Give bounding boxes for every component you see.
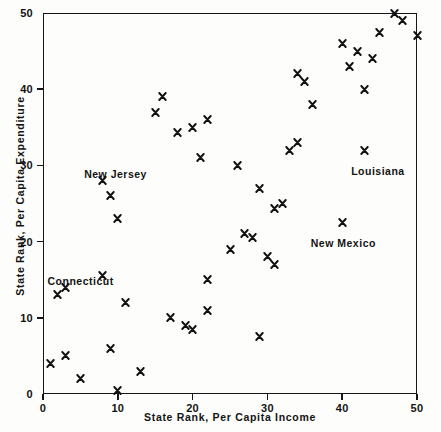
data-point (308, 100, 317, 109)
y-axis-label: State Rank, Per Capita Expenditure (14, 26, 26, 366)
y-tick (37, 317, 43, 319)
data-point (255, 332, 264, 341)
x-tick (341, 394, 343, 400)
point-annotation: Connecticut (47, 275, 113, 287)
data-point (196, 153, 205, 162)
point-annotation: Louisiana (351, 165, 405, 177)
data-point (338, 218, 347, 227)
point-annotation: New Jersey (84, 168, 147, 180)
data-point (360, 146, 369, 155)
data-point (203, 306, 212, 315)
x-tick (42, 394, 44, 400)
data-point (151, 108, 160, 117)
data-point (188, 325, 197, 334)
data-point (121, 298, 130, 307)
data-point (270, 260, 279, 269)
data-point (61, 351, 70, 360)
data-point (188, 123, 197, 132)
data-point (398, 16, 407, 25)
data-point (46, 359, 55, 368)
y-tick (37, 88, 43, 90)
data-point (368, 54, 377, 63)
data-point (360, 85, 369, 94)
data-point (166, 313, 175, 322)
data-point (353, 47, 362, 56)
x-tick (192, 394, 194, 400)
data-point (203, 115, 212, 124)
x-axis-label: State Rank, Per Capita Income (43, 411, 417, 423)
data-point (248, 233, 257, 242)
plot-area: New JerseyConnecticutLouisianaNew Mexico (43, 13, 417, 394)
data-point (278, 199, 287, 208)
x-tick (416, 394, 418, 400)
data-point (158, 92, 167, 101)
y-tick (37, 165, 43, 167)
data-point (106, 191, 115, 200)
data-point (338, 39, 347, 48)
data-point (136, 367, 145, 376)
data-point (255, 184, 264, 193)
y-tick-label: 0 (27, 388, 33, 400)
data-point (233, 161, 242, 170)
data-point (300, 77, 309, 86)
y-tick-label: 50 (20, 7, 33, 19)
x-tick (117, 394, 119, 400)
scatter-plot-figure: New JerseyConnecticutLouisianaNew Mexico… (0, 0, 441, 432)
x-tick (267, 394, 269, 400)
data-point (293, 138, 302, 147)
data-point (203, 275, 212, 284)
data-point (106, 344, 115, 353)
point-annotation: New Mexico (311, 237, 376, 249)
data-point (345, 62, 354, 71)
y-tick (37, 241, 43, 243)
data-point (413, 31, 422, 40)
data-point (173, 128, 182, 137)
data-point (76, 374, 85, 383)
data-point (113, 214, 122, 223)
data-point (375, 28, 384, 37)
data-point (226, 245, 235, 254)
